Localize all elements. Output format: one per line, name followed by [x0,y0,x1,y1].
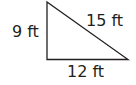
left-side-label: 9 ft [12,22,39,41]
bottom-side-label: 12 ft [67,62,104,81]
hypotenuse-label: 15 ft [86,11,123,30]
triangle-diagram: 9 ft 15 ft 12 ft [0,0,136,85]
